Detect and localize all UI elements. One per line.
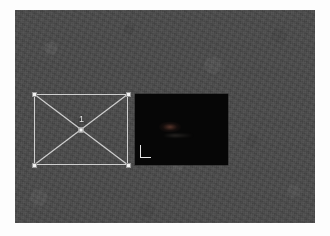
render-highlight-streak xyxy=(163,134,193,137)
selected-object-label: 1 xyxy=(79,115,84,124)
resize-handle-bottom-right[interactable] xyxy=(126,163,131,168)
resize-handle-bottom-left[interactable] xyxy=(32,163,37,168)
perspective-viewport[interactable]: 1 xyxy=(15,10,315,223)
selection-bounding-box[interactable]: 1 xyxy=(34,94,128,165)
screenshot-root: 1 xyxy=(0,0,330,236)
render-preview-panel[interactable] xyxy=(135,94,228,165)
resize-handle-top-left[interactable] xyxy=(32,92,37,97)
move-handle-center[interactable] xyxy=(79,127,84,132)
axis-indicator-icon xyxy=(140,145,151,158)
resize-handle-top-right[interactable] xyxy=(126,92,131,97)
render-subject-glow xyxy=(159,122,181,133)
axis-horizontal-line xyxy=(140,157,151,158)
